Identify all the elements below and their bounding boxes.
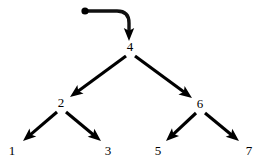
- tree-node-3: 3: [105, 143, 112, 158]
- tree-edge-4-to-2: [70, 56, 126, 97]
- tree-diagram: 44226611335577: [0, 0, 267, 164]
- edge-line-e2-1: [30, 112, 57, 135]
- tree-node-7: 7: [246, 143, 253, 158]
- tree-edge-2-to-3: [66, 112, 101, 141]
- tree-node-1: 1: [9, 143, 16, 158]
- edge-line-e6-7: [205, 113, 232, 135]
- edge-line-e6-5: [173, 113, 196, 135]
- root-pointer-dot: [81, 7, 88, 14]
- tree-node-4: 4: [127, 39, 134, 54]
- tree-node-6: 6: [197, 96, 204, 111]
- tree-node-5: 5: [155, 143, 162, 158]
- tree-edge-6-to-7: [205, 113, 239, 141]
- tree-edge-4-to-6: [135, 56, 192, 98]
- tree-node-2: 2: [58, 95, 65, 110]
- tree-edge-6-to-5: [166, 113, 196, 141]
- root-pointer: [81, 7, 134, 41]
- edge-line-e2-3: [66, 112, 94, 135]
- tree-edge-2-to-1: [23, 112, 57, 141]
- root-pointer-path: [85, 11, 129, 31]
- edge-line-e4-2: [78, 56, 126, 91]
- tree-canvas: 44226611335577: [0, 0, 267, 164]
- edge-line-e4-6: [135, 56, 184, 92]
